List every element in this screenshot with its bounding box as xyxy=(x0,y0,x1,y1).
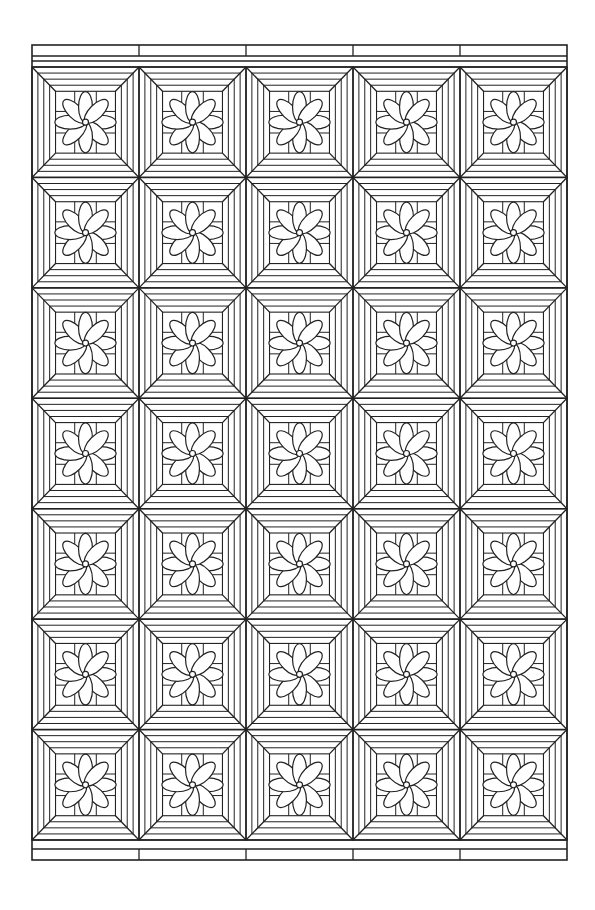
coloring-page-pattern xyxy=(0,0,595,910)
